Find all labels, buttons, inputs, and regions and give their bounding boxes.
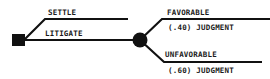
- settle-label: SETTLE: [48, 8, 77, 17]
- chance-node-circle: [133, 33, 148, 48]
- decision-node-square: [12, 34, 25, 46]
- litigate-label: LITIGATE: [45, 29, 83, 38]
- decision-tree-diagram: SETTLE LITIGATE FAVORABLE (.40) JUDGMENT…: [0, 0, 270, 79]
- favorable-label: FAVORABLE: [167, 8, 210, 17]
- favorable-probability-label: (.40) JUDGMENT: [168, 23, 234, 32]
- unfavorable-probability-label: (.60) JUDGMENT: [168, 66, 234, 75]
- unfavorable-label: UNFAVORABLE: [165, 50, 217, 59]
